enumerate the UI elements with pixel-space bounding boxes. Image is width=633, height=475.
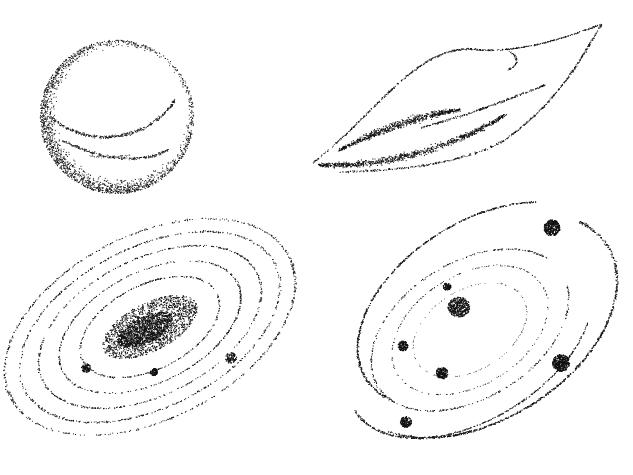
comet-illustration (313, 24, 603, 174)
planet-illustration (40, 40, 195, 194)
stipple-space-illustration (0, 0, 633, 475)
solar-system-illustration (354, 201, 618, 440)
spiral-galaxy-illustration (3, 218, 297, 436)
